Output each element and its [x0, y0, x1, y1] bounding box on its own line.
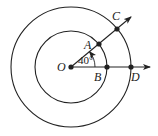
label-o: O [57, 60, 66, 74]
label-a: A [83, 38, 92, 52]
label-b: B [94, 70, 102, 84]
point-d [128, 64, 133, 69]
label-c: C [112, 9, 121, 23]
label-d: D [130, 70, 140, 84]
point-o [68, 64, 73, 69]
point-c [114, 26, 119, 31]
point-a [96, 41, 101, 46]
diagram-canvas: O A B C D 40° [0, 0, 158, 136]
point-b [104, 64, 109, 69]
angle-label: 40° [78, 54, 93, 66]
